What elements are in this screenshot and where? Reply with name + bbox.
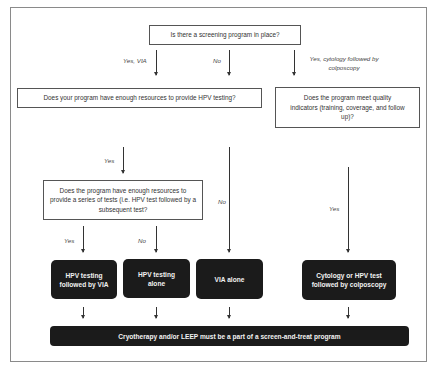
outcome-hpv-followed-by-via: HPV testing followed by VIA: [51, 260, 117, 299]
outcome-cytology-or-hpv: Cytology or HPV test followed by colposc…: [302, 260, 396, 300]
question-series-tests: Does the program have enough resources t…: [43, 180, 203, 220]
arrow-yes-quality: [348, 167, 349, 252]
label-no-hpv: No: [218, 198, 226, 207]
outcome-via-alone-text: VIA alone: [215, 275, 245, 284]
outcome-hpv-alone-text: HPV testing alone: [135, 270, 178, 288]
question-hpv-resources-text: Does your program have enough resources …: [43, 93, 235, 103]
outcome-cytology-or-hpv-text: Cytology or HPV test followed by colposc…: [308, 271, 390, 289]
arrow-no-hpv: [229, 147, 230, 252]
arrow-yes-via: [156, 50, 157, 75]
arrow-yes-cytology: [294, 50, 295, 75]
arrow-final-1: [83, 307, 84, 318]
final-cryotherapy-leep-text: Cryotherapy and/or LEEP must be a part o…: [118, 332, 340, 341]
arrow-final-4: [348, 307, 349, 318]
label-yes-hpv: Yes: [104, 157, 114, 166]
arrow-yes-series: [83, 226, 84, 252]
arrow-final-3: [229, 307, 230, 318]
outcome-via-alone: VIA alone: [196, 259, 263, 299]
label-yes-series: Yes: [64, 237, 74, 246]
question-screening-program-text: Is there a screening program in place?: [170, 30, 279, 40]
label-yes-quality: Yes: [329, 205, 339, 214]
label-yes-cytology: Yes, cytology followed by colposcopy: [304, 55, 384, 72]
label-no-top: No: [213, 57, 221, 66]
outcome-hpv-followed-by-via-text: HPV testing followed by VIA: [59, 271, 109, 289]
question-quality-indicators: Does the program meet quality indicators…: [275, 87, 420, 128]
label-no-series: No: [138, 237, 146, 246]
arrow-yes-hpv: [123, 147, 124, 173]
arrow-final-2: [156, 307, 157, 318]
question-series-tests-text: Does the program have enough resources t…: [49, 186, 197, 215]
arrow-no-series: [156, 226, 157, 252]
label-yes-via: Yes, VIA: [123, 57, 147, 66]
question-hpv-resources: Does your program have enough resources …: [17, 88, 262, 108]
final-cryotherapy-leep: Cryotherapy and/or LEEP must be a part o…: [50, 326, 409, 346]
question-quality-indicators-text: Does the program meet quality indicators…: [290, 93, 405, 122]
arrow-no-top: [229, 50, 230, 75]
outcome-hpv-alone: HPV testing alone: [123, 259, 190, 298]
question-screening-program: Is there a screening program in place?: [149, 25, 301, 45]
